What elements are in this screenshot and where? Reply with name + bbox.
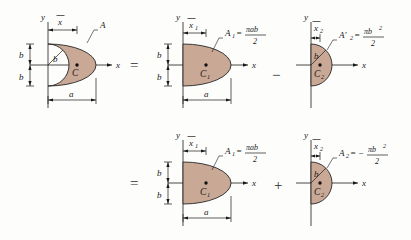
x-axis-arrow <box>353 63 358 67</box>
x-axis-label: x <box>251 178 256 188</box>
row1-minus-operator: − <box>272 67 280 83</box>
x-axis-arrow <box>353 181 358 185</box>
xbar-subscript: 2 <box>320 27 323 34</box>
b-upper-label: b <box>157 168 162 178</box>
b-lower-arrow-top <box>166 65 169 70</box>
x-axis-label: x <box>361 178 366 188</box>
area-denominator: 2 <box>253 37 257 46</box>
area-equals: = <box>236 146 242 156</box>
area-leader-line <box>87 30 98 43</box>
area-subscript: 1 <box>232 150 235 157</box>
x-axis-arrow <box>107 63 112 67</box>
b-lower-arrow-top <box>166 183 169 188</box>
centroid-label: C <box>314 69 321 79</box>
b-upper-arrow-top <box>28 44 31 49</box>
b-upper-arrow-bot <box>166 178 169 183</box>
y-axis-label: y <box>175 130 180 140</box>
y-axis-label: y <box>303 12 308 22</box>
xbar-subscript: 1 <box>195 142 198 149</box>
area-numerator-exponent: 2 <box>383 142 386 149</box>
centroid-subscript: 2 <box>321 73 324 80</box>
area-symbol: A <box>224 28 231 38</box>
x-axis-arrow <box>243 63 248 67</box>
area-subscript: 2 <box>346 152 349 159</box>
xbar-arrow-left <box>311 37 315 40</box>
xbar-label: x <box>188 20 193 30</box>
centroid-dot <box>204 63 207 66</box>
b-upper-arrow-bot <box>28 60 31 65</box>
row1-shape2-semiellipse: x y C 1 x 1 b b a A 1 = πab 2 <box>157 12 266 108</box>
xbar-label: x <box>188 138 193 148</box>
a-label: a <box>204 207 209 217</box>
area-subscript: 1 <box>232 32 235 39</box>
area-numerator: πab <box>246 25 258 34</box>
centroid-dot <box>204 181 207 184</box>
area-equals: = <box>236 28 242 38</box>
x-axis-label: x <box>115 60 120 70</box>
row2-plus-operator: + <box>274 177 282 193</box>
a-arrow-right <box>226 98 231 101</box>
area-symbol: A <box>338 148 345 158</box>
centroid-label: C <box>200 187 207 197</box>
area-leader-line <box>327 40 337 50</box>
xbar-arrow-right <box>201 149 206 152</box>
x-axis-label: x <box>251 60 256 70</box>
area-numerator: πb <box>364 27 372 36</box>
b-upper-arrow-top <box>166 162 169 167</box>
a-arrow-left <box>183 98 188 101</box>
area-symbol: A′ <box>338 30 347 40</box>
b-lower-arrow-top <box>28 65 31 70</box>
area-subscript: 2 <box>350 34 353 41</box>
y-axis-label: y <box>175 12 180 22</box>
xbar-label: x <box>313 23 318 33</box>
y-axis-label: y <box>303 130 308 140</box>
xbar-arrow-left <box>48 28 53 31</box>
area-numerator-exponent: 2 <box>379 24 382 31</box>
centroid-label: C <box>314 187 321 197</box>
xbar-label: x <box>313 141 318 151</box>
area-denominator: 2 <box>371 39 375 48</box>
composite-area-diagram: x y b C x b b a <box>0 0 411 240</box>
a-label: a <box>69 89 74 99</box>
b-upper-arrow-top <box>166 44 169 49</box>
figure-canvas: x y b C x b b a <box>0 0 411 240</box>
area-numerator: πb <box>368 145 376 154</box>
area-label-A: A <box>99 20 106 30</box>
area-symbol: A <box>224 146 231 156</box>
row1-shape1-crescent: x y b C x b b a <box>19 12 120 108</box>
centroid-dot <box>318 181 321 184</box>
centroid-label: C <box>72 68 79 78</box>
semicircle-radius-label: b <box>314 169 319 179</box>
a-arrow-left <box>48 98 53 101</box>
centroid-label: C <box>200 69 207 79</box>
centroid-dot <box>318 63 321 66</box>
xbar-arrow-right <box>201 31 206 34</box>
b-lower-label: b <box>157 190 162 200</box>
area-denominator: 2 <box>375 157 379 166</box>
area-numerator: πab <box>246 143 258 152</box>
a-arrow-left <box>183 216 188 219</box>
xbar-subscript: 2 <box>320 145 323 152</box>
row2-equals-operator: = <box>130 175 138 191</box>
centroid-subscript: 1 <box>207 191 210 198</box>
xbar-label: x <box>57 17 62 27</box>
a-label: a <box>204 89 209 99</box>
a-arrow-right <box>226 216 231 219</box>
b-lower-arrow-bot <box>166 199 169 204</box>
xbar-arrow-left <box>311 155 315 158</box>
area-denominator: 2 <box>253 155 257 164</box>
row1-shape3-semicircle: x y b C 2 x 2 A′ 2 = πb 2 2 <box>296 12 384 108</box>
x-axis-arrow <box>243 181 248 185</box>
a-arrow-right <box>91 98 96 101</box>
row1-equals-operator: = <box>130 57 138 73</box>
xbar-subscript: 1 <box>195 24 198 31</box>
xbar-arrow-right <box>316 37 320 40</box>
b-lower-label: b <box>19 72 24 82</box>
b-lower-arrow-bot <box>28 81 31 86</box>
area-leader-line <box>327 158 337 168</box>
b-upper-arrow-bot <box>166 60 169 65</box>
centroid-dot <box>75 63 78 66</box>
xbar-arrow-left <box>183 31 188 34</box>
area-sign-negative: − <box>358 148 364 158</box>
b-upper-label: b <box>19 50 24 60</box>
